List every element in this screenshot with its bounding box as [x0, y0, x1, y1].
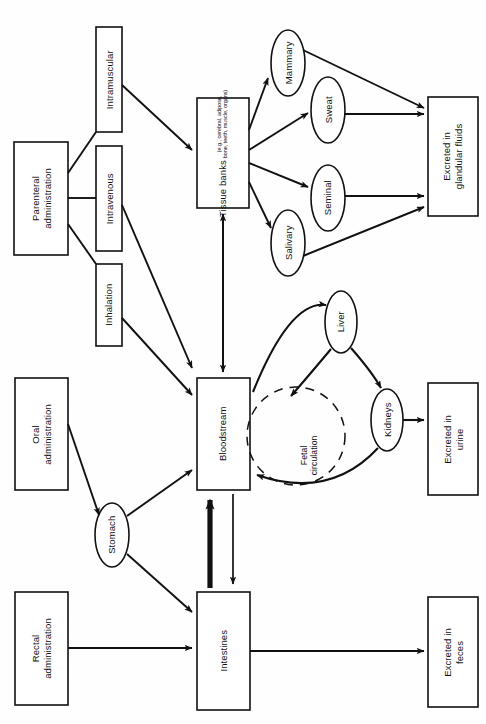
- node-bloodstream[interactable]: [197, 378, 250, 490]
- diagram-canvas: Parenteral administration Intramuscular …: [0, 0, 486, 724]
- diagram-svg: [0, 0, 486, 724]
- edge-oral-stomach: [68, 424, 99, 515]
- edge-inhalation-bloodstream: [122, 318, 192, 395]
- node-tissue-banks[interactable]: [197, 98, 249, 208]
- edge-tissuebanks-seminal: [249, 163, 308, 187]
- node-oral-administration[interactable]: [15, 378, 68, 490]
- edge-tissuebanks-sweat: [249, 113, 308, 150]
- node-excreted-glandular-fluids[interactable]: [428, 97, 478, 216]
- node-intravenous[interactable]: [96, 146, 122, 251]
- node-inhalation[interactable]: [96, 264, 122, 346]
- node-intestines[interactable]: [197, 592, 250, 710]
- node-seminal[interactable]: [311, 165, 345, 231]
- edge-group-parenteral: [68, 132, 96, 264]
- edge-liver-kidneys: [351, 348, 381, 388]
- edge-tissuebanks-salivary: [249, 182, 271, 228]
- edge-parenteral-intramuscular: [68, 132, 96, 173]
- node-parenteral-administration[interactable]: [14, 142, 68, 255]
- edge-bloodstream-liver: [253, 305, 326, 392]
- node-excreted-feces[interactable]: [428, 597, 478, 707]
- edge-stomach-bloodstream: [127, 470, 192, 516]
- node-salivary[interactable]: [271, 210, 305, 276]
- node-stomach[interactable]: [95, 503, 129, 567]
- node-excreted-urine[interactable]: [428, 383, 478, 495]
- node-rectal-administration[interactable]: [15, 592, 68, 705]
- node-mammary[interactable]: [271, 30, 305, 96]
- edge-kidneys-bloodstream: [257, 448, 378, 483]
- node-intramuscular[interactable]: [96, 27, 122, 132]
- edge-tissuebanks-mammary: [249, 78, 268, 130]
- edge-intramuscular-tissuebanks: [122, 85, 192, 150]
- edge-intravenous-bloodstream: [122, 205, 192, 368]
- edge-stomach-intestines: [127, 554, 192, 612]
- fetal-circulation-dashed-circle: [247, 387, 345, 485]
- edge-parenteral-inhalation: [68, 224, 96, 264]
- node-kidneys[interactable]: [371, 389, 403, 451]
- node-sweat[interactable]: [311, 77, 345, 143]
- node-liver[interactable]: [325, 291, 357, 353]
